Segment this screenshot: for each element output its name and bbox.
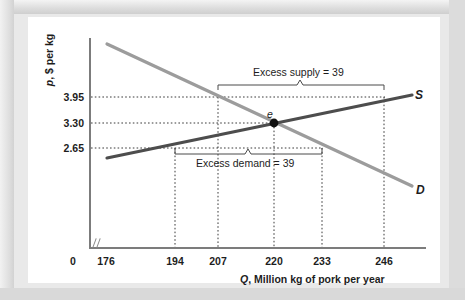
x-tick-label-233: 233 <box>302 255 342 267</box>
excess-demand-annotation: Excess demand = 39 <box>196 157 294 169</box>
x-tick-label-220: 220 <box>254 255 294 267</box>
supply-demand-chart: 3.95 3.30 2.65 0 176 194 207 220 233 246… <box>0 0 465 300</box>
supply-curve <box>107 95 412 158</box>
x-tick-label-207: 207 <box>198 255 238 267</box>
x-axis-title-symbol: Q <box>240 273 248 285</box>
x-tick-label-194: 194 <box>155 255 195 267</box>
excess-demand-bracket <box>175 148 322 154</box>
x-tick-label-246: 246 <box>364 255 404 267</box>
supply-curve-label: S <box>415 88 423 102</box>
x-axis <box>89 247 426 249</box>
excess-supply-bracket <box>218 80 384 90</box>
y-axis-title: p, $ per kg <box>43 10 55 110</box>
y-tick-label-330: 3.30 <box>44 117 84 129</box>
figure-page: 3.95 3.30 2.65 0 176 194 207 220 233 246… <box>0 0 465 300</box>
demand-curve-label: D <box>416 183 425 197</box>
y-axis-title-rest: , $ per kg <box>43 34 55 80</box>
equilibrium-point-label: e <box>267 108 273 120</box>
y-axis-title-symbol: p <box>43 80 55 86</box>
x-axis-title: Q, Million kg of pork per year <box>240 273 385 285</box>
y-axis <box>89 38 91 248</box>
x-axis-title-rest: , Million kg of pork per year <box>248 273 385 285</box>
axis-break-symbol <box>91 236 105 250</box>
y-tick-label-265: 2.65 <box>44 142 84 154</box>
x-tick-label-176: 176 <box>86 255 126 267</box>
excess-supply-annotation: Excess supply = 39 <box>253 66 344 78</box>
